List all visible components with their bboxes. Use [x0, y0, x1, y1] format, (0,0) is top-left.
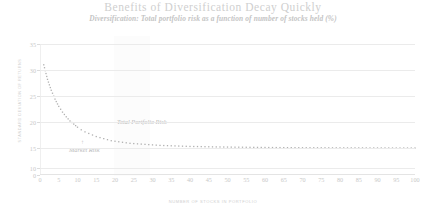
data-point [193, 146, 194, 147]
data-point [73, 123, 74, 124]
data-point [64, 114, 65, 115]
chart-page: Benefits of Diversification Decay Quickl… [0, 0, 426, 215]
data-point [197, 146, 198, 147]
data-point [43, 64, 44, 65]
data-point [103, 138, 104, 139]
x-tick-label: 25 [131, 176, 137, 183]
data-point [49, 84, 50, 85]
data-series-total-portfolio-risk [40, 44, 415, 174]
x-tick-label: 40 [187, 176, 193, 183]
data-point [167, 145, 168, 146]
x-tick-label: 75 [318, 176, 324, 183]
data-point [62, 111, 63, 112]
gridline [40, 122, 415, 123]
data-point [148, 144, 149, 145]
x-axis-tick-labels: 0510152025303540455055606570758085909510… [40, 176, 415, 186]
data-point [66, 116, 67, 117]
x-tick-label: 60 [262, 176, 268, 183]
data-point [144, 144, 145, 145]
x-tick-label: 65 [281, 176, 287, 183]
x-tick-label: 50 [224, 176, 230, 183]
data-point [75, 125, 76, 126]
data-point [54, 98, 55, 99]
data-point [52, 93, 53, 94]
gridline [40, 44, 415, 45]
x-tick-label: 100 [410, 176, 419, 183]
data-point [174, 145, 175, 146]
gridline [40, 168, 415, 169]
y-tick-label: 0 [16, 172, 36, 179]
data-point [84, 131, 85, 132]
data-point [189, 146, 190, 147]
data-point [96, 136, 97, 137]
page-title: Benefits of Diversification Decay Quickl… [0, 1, 426, 13]
data-point [111, 140, 112, 141]
y-tick-label: 10 [16, 165, 36, 172]
x-tick-label: 10 [74, 176, 80, 183]
x-tick-label: 20 [112, 176, 118, 183]
data-point [114, 141, 115, 142]
data-point [129, 143, 130, 144]
data-point [58, 106, 59, 107]
data-point [159, 145, 160, 146]
x-axis-line [40, 174, 415, 175]
gridline [40, 96, 415, 97]
data-point [50, 87, 51, 88]
x-tick-label: 45 [206, 176, 212, 183]
x-tick-label: 30 [149, 176, 155, 183]
plot-area [40, 44, 415, 174]
y-axis-title: STANDARD DEVIATION OF RETURNS [17, 47, 22, 155]
x-tick-label: 0 [38, 176, 41, 183]
data-point [67, 118, 68, 119]
x-tick-label: 95 [393, 176, 399, 183]
data-point [122, 142, 123, 143]
chart-subtitle: Diversification: Total portfolio risk as… [0, 14, 426, 23]
data-point [118, 141, 119, 142]
data-point [51, 90, 52, 91]
x-tick-label: 55 [243, 176, 249, 183]
data-point [56, 101, 57, 102]
data-point [47, 79, 48, 80]
data-point [137, 143, 138, 144]
x-tick-label: 35 [168, 176, 174, 183]
x-tick-label: 90 [374, 176, 380, 183]
x-tick-label: 85 [356, 176, 362, 183]
data-point [57, 103, 58, 104]
data-point [186, 146, 187, 147]
data-point [107, 139, 108, 140]
x-axis-title: NUMBER OF STOCKS IN PORTFOLIO [0, 199, 426, 204]
data-point [46, 76, 47, 77]
data-point [133, 143, 134, 144]
x-tick-label: 15 [93, 176, 99, 183]
data-point [92, 134, 93, 135]
data-point [141, 143, 142, 144]
data-point [126, 142, 127, 143]
data-point [77, 127, 78, 128]
data-point [88, 133, 89, 134]
arrow-up-icon: ↑ [81, 139, 84, 145]
data-point [48, 81, 49, 82]
data-point [171, 145, 172, 146]
data-point [99, 137, 100, 138]
data-point [152, 144, 153, 145]
gridline [40, 70, 415, 71]
data-point [45, 73, 46, 74]
x-tick-label: 80 [337, 176, 343, 183]
data-point [182, 146, 183, 147]
data-point [60, 109, 61, 110]
data-point [81, 129, 82, 130]
data-point [163, 145, 164, 146]
gridline [40, 148, 415, 149]
x-tick-label: 70 [299, 176, 305, 183]
data-point [44, 67, 45, 68]
data-point [156, 144, 157, 145]
x-tick-label: 5 [57, 176, 60, 183]
data-point [178, 145, 179, 146]
